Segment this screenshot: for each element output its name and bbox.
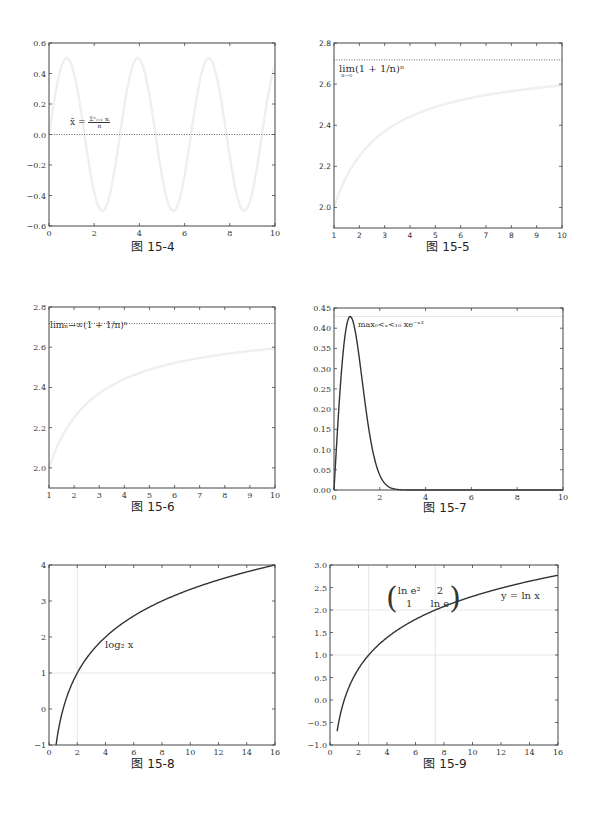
y-tick-label: 0 — [41, 705, 46, 714]
y-tick-label: 2.5 — [314, 584, 327, 593]
axes-frame — [49, 565, 275, 745]
data-curve — [334, 85, 562, 207]
y-tick-label: 2.8 — [33, 303, 46, 312]
figure-caption: 图 15-6 — [83, 497, 223, 514]
y-tick-label: 0.0 — [314, 696, 327, 705]
figure-caption: 图 15-7 — [375, 498, 515, 515]
annotation-expr: (1 + 1/n)ⁿ — [355, 63, 404, 74]
figure-caption: 图 15-9 — [375, 754, 515, 771]
chart-15-8: 024681012141643210−1 — [0, 540, 295, 815]
y-tick-label: 0.40 — [313, 324, 331, 333]
y-tick-label: 2.2 — [319, 162, 331, 171]
x-tick-label: 9 — [247, 491, 252, 500]
y-tick-label: 2.4 — [33, 383, 46, 392]
figure-caption: 图 15-8 — [83, 754, 223, 771]
y-tick-label: 0.6 — [33, 39, 46, 48]
y-tick-label: 2.0 — [319, 203, 331, 212]
matrix-cell: 2 — [430, 585, 449, 597]
x-tick-label: 2 — [75, 748, 80, 757]
x-tick-label: 10 — [558, 493, 568, 502]
y-tick-label: 0.2 — [33, 100, 46, 109]
plot-area: 024681012141643210−1 — [34, 561, 280, 757]
plot-area: 02468100.60.40.20.0−0.2−0.4−0.6 — [27, 39, 281, 238]
figure-caption: 图 15-5 — [378, 237, 518, 254]
matrix-cell: ln e — [430, 598, 449, 610]
y-tick-label: −1.0 — [308, 741, 327, 750]
x-tick-label: 9 — [534, 231, 539, 240]
y-tick-label: 0.5 — [314, 674, 327, 683]
x-tick-label: 1 — [332, 231, 337, 240]
data-curve — [56, 565, 275, 745]
chart-15-4: 02468100.60.40.20.0−0.2−0.4−0.6 — [0, 0, 295, 265]
x-tick-label: 2 — [72, 491, 77, 500]
x-tick-label: 10 — [270, 229, 280, 238]
x-tick-label: 16 — [553, 748, 563, 757]
x-tick-label: 16 — [270, 748, 280, 757]
axes-frame — [334, 308, 563, 490]
plot-area: 02468100.450.400.350.300.250.200.150.100… — [313, 304, 568, 502]
y-tick-label: 1 — [41, 669, 46, 678]
figure-15-6: 123456789102.82.62.42.22.0 limₙ→∞(1 + 1/… — [0, 265, 295, 540]
y-tick-label: 2.2 — [33, 424, 46, 433]
y-tick-label: 0.10 — [313, 446, 331, 455]
x-tick-label: 2 — [356, 748, 361, 757]
annotation-ln: y = ln x — [501, 590, 540, 601]
annotation-limit: lim n→∞ (1 + 1/n)ⁿ — [339, 64, 404, 78]
figure-15-7: 02468100.450.400.350.300.250.200.150.100… — [295, 265, 590, 540]
y-tick-label: 0.20 — [313, 405, 331, 414]
y-tick-label: 1.0 — [314, 651, 327, 660]
annotation-sub: n→∞ — [339, 73, 355, 78]
y-tick-label: 2.0 — [33, 464, 46, 473]
x-tick-label: 14 — [524, 748, 534, 757]
y-tick-label: 2.6 — [33, 343, 46, 352]
figure-15-5: 123456789102.82.62.42.22.0 lim n→∞ (1 + … — [295, 0, 590, 265]
x-tick-label: 14 — [242, 748, 252, 757]
figure-caption: 图 15-4 — [83, 237, 223, 254]
annotation-lhs: x̄ = — [70, 117, 85, 127]
data-curve — [334, 317, 563, 490]
y-tick-label: 0.4 — [33, 70, 46, 79]
x-tick-label: 10 — [557, 231, 567, 240]
y-tick-label: −0.4 — [27, 192, 46, 201]
x-tick-label: 1 — [46, 491, 51, 500]
x-tick-label: 0 — [46, 229, 51, 238]
x-tick-label: 2 — [357, 231, 362, 240]
y-tick-label: 0.45 — [313, 304, 331, 313]
y-tick-label: −0.5 — [308, 719, 327, 728]
y-tick-label: 1.5 — [314, 629, 327, 638]
y-tick-label: 0.15 — [313, 425, 331, 434]
figure-15-4: 02468100.60.40.20.0−0.2−0.4−0.6 x̄ = Σⁿᵢ… — [0, 0, 295, 265]
y-tick-label: 3 — [41, 597, 46, 606]
annotation-matrix: ( ln e² 2 1 ln e ) — [386, 580, 461, 615]
figure-15-9: 02468101214163.02.52.01.51.00.50.0−0.5−1… — [295, 540, 590, 815]
y-tick-label: 3.0 — [314, 561, 327, 570]
y-tick-label: −0.2 — [27, 161, 46, 170]
annotation-max: max₀<ₓ<₁₀ xe⁻ˣ² — [358, 320, 424, 329]
y-tick-label: 2.6 — [319, 80, 331, 89]
y-tick-label: 0.00 — [313, 486, 331, 495]
y-tick-label: 4 — [41, 561, 46, 570]
y-tick-label: −0.6 — [27, 222, 46, 231]
y-tick-label: 2.4 — [319, 121, 331, 130]
x-tick-label: 10 — [270, 491, 280, 500]
y-tick-label: −1 — [34, 741, 46, 750]
x-tick-label: 0 — [327, 748, 332, 757]
x-tick-label: 0 — [46, 748, 51, 757]
x-tick-label: 8 — [515, 493, 520, 502]
annotation-denominator: n — [88, 123, 110, 129]
y-tick-label: 0.35 — [313, 344, 331, 353]
x-tick-label: 0 — [331, 493, 336, 502]
annotation-mean-formula: x̄ = Σⁿᵢ₌₁ xᵢ n — [70, 116, 110, 129]
annotation-log2: log₂ x — [105, 639, 133, 650]
data-curve — [49, 348, 275, 467]
y-tick-label: 0.25 — [313, 385, 331, 394]
y-tick-label: 2 — [41, 633, 46, 642]
y-tick-label: 0.30 — [313, 365, 331, 374]
axes-frame — [49, 307, 275, 488]
plot-area: 123456789102.82.62.42.22.0 — [33, 303, 280, 500]
matrix-cell: ln e² — [398, 585, 421, 597]
annotation-limit: limₙ→∞(1 + 1/n)ⁿ — [50, 320, 128, 330]
chart-15-5: 123456789102.82.62.42.22.0 — [295, 0, 590, 265]
y-tick-label: 0.0 — [33, 131, 46, 140]
y-tick-label: 2.8 — [319, 39, 331, 48]
